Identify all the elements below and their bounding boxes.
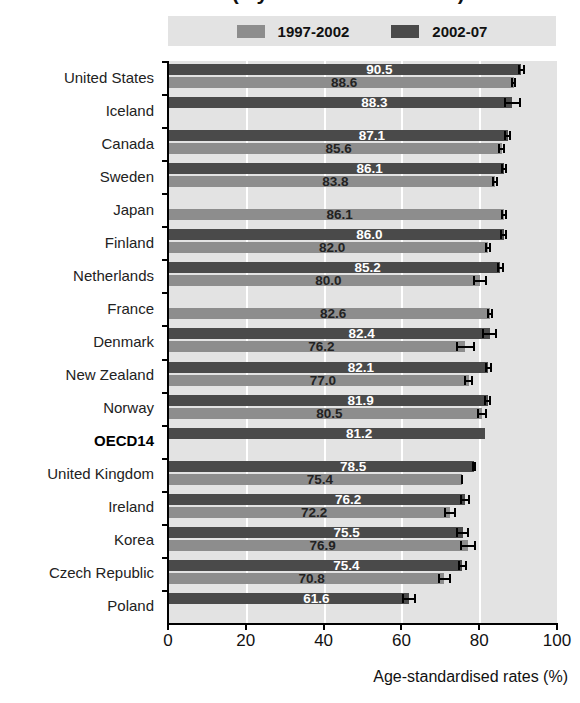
error-bar-cap: [505, 164, 507, 173]
error-bar-cap: [485, 276, 487, 285]
value-label-1997-2002: 76.2: [308, 341, 334, 352]
chart-row: 61.6: [169, 590, 558, 623]
value-label-1997-2002: 85.6: [326, 143, 352, 154]
value-label-2002-07: 86.1: [357, 163, 383, 174]
error-bar-cap: [456, 528, 458, 537]
category-tick: [162, 259, 169, 261]
error-bar-cap: [505, 230, 507, 239]
error-bar-cap: [518, 65, 520, 74]
category-label-iceland: Iceland: [106, 103, 154, 119]
category-tick: [162, 524, 169, 526]
category-label-new-zealand: New Zealand: [66, 367, 154, 383]
error-bar-cap: [485, 409, 487, 418]
legend-swatch-light-gray: [237, 25, 265, 38]
value-label-1997-2002: 76.9: [310, 540, 336, 551]
chart-row: 88.3: [169, 94, 558, 127]
x-tick-label-20: 20: [236, 631, 255, 651]
category-tick: [162, 359, 169, 361]
value-label-2002-07: 81.2: [346, 428, 372, 439]
value-label-1997-2002: 77.0: [310, 375, 336, 386]
x-tick-60: [400, 623, 402, 630]
value-label-1997-2002: 86.1: [326, 209, 352, 220]
value-label-2002-07: 61.6: [303, 593, 329, 604]
error-bar-cap: [402, 594, 404, 603]
chart-row: 82.177.0: [169, 359, 558, 392]
category-label-oecd14: OECD14: [94, 433, 154, 449]
error-bar-cap: [509, 131, 511, 140]
error-bar: [169, 474, 558, 485]
chart-legend: 1997-2002 2002-07: [168, 16, 556, 46]
value-label-1997-2002: 72.2: [301, 507, 327, 518]
x-tick-0: [167, 623, 169, 630]
category-label-france: France: [107, 301, 154, 317]
error-bar-cap: [523, 65, 525, 74]
x-tick-label-60: 60: [392, 631, 411, 651]
legend-item-1997-2002: 1997-2002: [237, 23, 350, 40]
chart-row: 86.1: [169, 193, 558, 226]
chart-title-clipped: 1997-2002 and 2002-07 (5-year relative s…: [0, 0, 580, 13]
category-tick: [162, 458, 169, 460]
x-tick-label-100: 100: [543, 631, 571, 651]
error-bar-cap: [444, 508, 446, 517]
error-bar-cap: [491, 309, 493, 318]
error-bar-cap: [460, 495, 462, 504]
category-tick: [162, 425, 169, 427]
value-label-2002-07: 81.9: [347, 395, 373, 406]
error-bar: [169, 143, 558, 154]
category-label-korea: Korea: [114, 532, 154, 548]
value-label-2002-07: 82.1: [348, 362, 374, 373]
error-bar-cap: [474, 462, 476, 471]
chart-row: 86.082.0: [169, 226, 558, 259]
error-bar-cap: [489, 396, 491, 405]
error-bar: [169, 77, 558, 88]
category-tick: [162, 590, 169, 592]
error-bar-cap: [449, 574, 451, 583]
value-label-2002-07: 87.1: [359, 130, 385, 141]
category-label-united-states: United States: [64, 70, 154, 86]
category-tick: [162, 160, 169, 162]
error-bar-cap: [438, 574, 440, 583]
category-axis-labels: United StatesIcelandCanadaSwedenJapanFin…: [0, 61, 160, 623]
error-bar-cap: [503, 144, 505, 153]
error-bar-cap: [489, 243, 491, 252]
error-bar-cap: [485, 243, 487, 252]
error-bar: [169, 560, 558, 571]
page-title: 1997-2002 and 2002-07 (5-year relative s…: [6, 0, 464, 5]
category-tick: [162, 325, 169, 327]
x-tick-80: [478, 623, 480, 630]
value-label-2002-07: 78.5: [340, 461, 366, 472]
chart-row: 81.980.5: [169, 392, 558, 425]
category-label-ireland: Ireland: [108, 499, 154, 515]
error-bar-cap: [492, 177, 494, 186]
x-axis-title: Age-standardised rates (%): [373, 668, 568, 686]
value-label-1997-2002: 82.0: [319, 242, 345, 253]
value-label-2002-07: 82.4: [349, 328, 375, 339]
error-bar-cap: [497, 263, 499, 272]
category-label-netherlands: Netherlands: [73, 268, 154, 284]
chart-row: 82.476.2: [169, 325, 558, 358]
x-tick-20: [245, 623, 247, 630]
error-bar-cap: [485, 363, 487, 372]
error-bar-cap: [505, 210, 507, 219]
chart-row: 75.576.9: [169, 524, 558, 557]
error-bar: [169, 275, 558, 286]
category-label-sweden: Sweden: [100, 169, 154, 185]
chart-row: 78.575.4: [169, 458, 558, 491]
plot-area: 90.588.688.387.185.686.183.886.186.082.0…: [167, 61, 558, 625]
value-label-1997-2002: 75.4: [307, 474, 333, 485]
category-tick: [162, 226, 169, 228]
legend-label-2002-07: 2002-07: [432, 23, 487, 40]
error-bar-cap: [504, 131, 506, 140]
value-label-1997-2002: 70.8: [298, 573, 324, 584]
error-bar-cap: [456, 342, 458, 351]
error-bar-cap: [468, 495, 470, 504]
legend-label-1997-2002: 1997-2002: [278, 23, 350, 40]
error-bar: [169, 64, 558, 75]
value-label-2002-07: 75.5: [333, 527, 359, 538]
error-bar-cap: [504, 98, 506, 107]
x-tick-label-0: 0: [163, 631, 172, 651]
error-bar: [169, 494, 558, 505]
error-bar: [169, 209, 558, 220]
category-label-canada: Canada: [101, 136, 154, 152]
error-bar-cap: [467, 528, 469, 537]
